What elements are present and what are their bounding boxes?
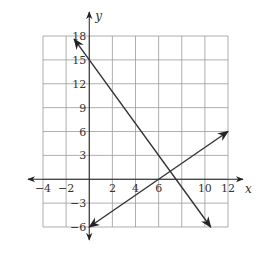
x-axis-label: x — [245, 182, 252, 196]
y-tick-label: 15 — [72, 54, 86, 67]
y-axis-label: y — [94, 9, 102, 23]
y-tick-label: 9 — [79, 102, 86, 115]
x-tick-label: −2 — [58, 182, 74, 195]
x-tick-label: −4 — [35, 182, 51, 195]
y-tick-label: 3 — [79, 149, 86, 162]
y-tick-label: −6 — [70, 221, 86, 234]
x-tick-label: 12 — [221, 182, 235, 195]
y-tick-label: −3 — [70, 197, 86, 210]
y-tick-label: 18 — [72, 30, 86, 43]
y-tick-label: 6 — [79, 126, 86, 139]
x-tick-label: 2 — [109, 182, 116, 195]
x-tick-label: 10 — [198, 182, 212, 195]
y-tick-label: 12 — [72, 78, 86, 91]
line-decreasing — [74, 39, 210, 227]
coordinate-plane: −4−22461012181512963−3−6 x y — [0, 0, 265, 258]
x-tick-label: 6 — [155, 182, 162, 195]
